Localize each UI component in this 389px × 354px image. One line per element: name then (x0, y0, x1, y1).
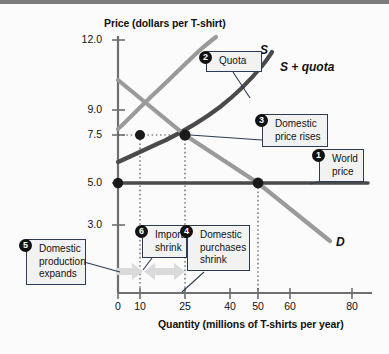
callout-badge-3[interactable]: 3 (255, 114, 268, 127)
dot-domestic-production (135, 130, 145, 140)
supply-plus-quota-curve-label: S + quota (280, 60, 334, 74)
x-tick-label-10: 10 (127, 300, 153, 312)
leader-production-expands (84, 262, 120, 272)
callout-domestic-production-expands[interactable]: Domestic production expands (26, 239, 86, 285)
x-tick-label-25: 25 (172, 300, 198, 312)
x-tick-label-50: 50 (245, 300, 271, 312)
quantity-change-arrows (116, 263, 185, 280)
x-tick-label-40: 40 (217, 300, 243, 312)
arrow-imports-shrink (144, 263, 185, 280)
y-axis-title: Price (dollars per T-shirt) (104, 17, 226, 29)
callout-domestic-price-rises[interactable]: Domestic price rises (262, 114, 328, 147)
x-axis-title: Quantity (millions of T-shirts per year) (158, 318, 344, 330)
callout-badge-2[interactable]: 2 (199, 51, 212, 64)
callout-quota[interactable]: Quota (206, 51, 262, 72)
y-tick-label-5: 5.0 (72, 176, 102, 188)
x-tick-label-80: 80 (339, 300, 365, 312)
y-tick-label-7-5: 7.5 (72, 128, 102, 140)
dot-world-price-axis (113, 178, 123, 188)
quota-diagram-figure: Price (dollars per T-shirt) Quantity (mi… (0, 0, 389, 354)
callout-world-price[interactable]: World price (319, 149, 364, 182)
y-tick-label-9: 9.0 (72, 103, 102, 115)
callout-badge-6[interactable]: 6 (135, 225, 148, 238)
y-tick-label-3: 3.0 (72, 218, 102, 230)
y-tick-label-12: 12.0 (72, 33, 102, 45)
dot-free-trade-quantity (253, 178, 264, 189)
supply-curve (118, 37, 216, 129)
dot-quota-equilibrium (179, 129, 190, 140)
callout-domestic-purchases-shrink[interactable]: Domestic purchases shrink (187, 225, 250, 271)
x-tick-label-60: 60 (277, 300, 303, 312)
callout-badge-4[interactable]: 4 (180, 225, 193, 238)
callout-badge-5[interactable]: 5 (19, 239, 32, 252)
plot-area: Price (dollars per T-shirt) Quantity (mi… (0, 0, 389, 354)
demand-curve-label: D (336, 235, 345, 249)
callout-badge-1[interactable]: 1 (312, 149, 325, 162)
leader-domestic-price (190, 135, 262, 140)
